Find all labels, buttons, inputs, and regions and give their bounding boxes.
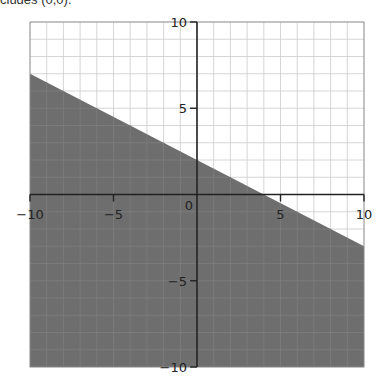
- y-tick-label: 5: [179, 101, 187, 116]
- y-tick-label: −5: [168, 274, 187, 289]
- inequality-graph: −10−50510−10−5510: [0, 0, 389, 387]
- y-tick-label: 10: [170, 15, 187, 30]
- x-tick-label: −10: [16, 207, 43, 222]
- x-tick-label: 5: [276, 207, 284, 222]
- x-tick-label: −5: [104, 207, 123, 222]
- x-tick-label: 0: [185, 198, 193, 213]
- y-tick-label: −10: [160, 360, 187, 375]
- x-tick-label: 10: [356, 207, 373, 222]
